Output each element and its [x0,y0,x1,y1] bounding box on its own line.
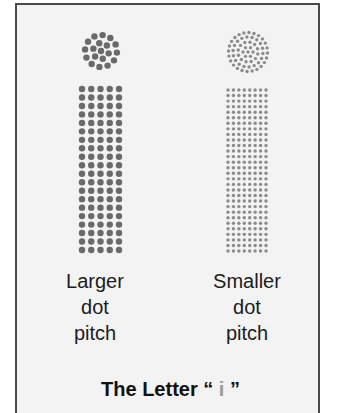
label-line: dot [25,294,165,320]
label-line: Larger [25,268,165,294]
title-text: The Letter [101,378,198,400]
open-quote: “ [203,378,213,400]
title-letter: i [219,378,225,400]
larger-pitch-label: Larger dot pitch [25,268,165,346]
close-quote: ” [230,378,240,400]
label-line: dot [177,294,317,320]
label-line: pitch [177,320,317,346]
small-dot-letter-i [226,31,269,253]
label-line: pitch [25,320,165,346]
figure-title: The Letter “ i ” [0,378,341,401]
label-line: Smaller [177,268,317,294]
smaller-pitch-label: Smaller dot pitch [177,268,317,346]
large-dot-letter-i [79,32,122,253]
